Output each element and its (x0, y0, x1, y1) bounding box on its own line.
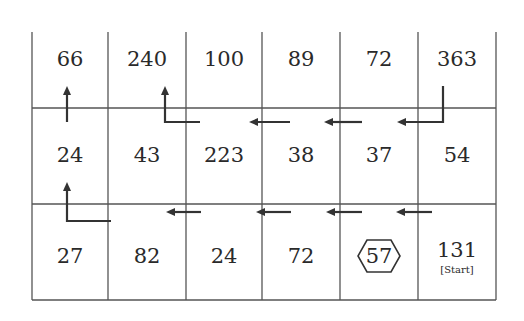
cell-r1-c4: 89 (262, 36, 340, 82)
cell-r1-c2: 240 (108, 36, 186, 82)
cell-r3-c1: 27 (32, 226, 108, 286)
cell-value: 240 (127, 47, 167, 71)
cell-r1-c1: 66 (32, 36, 108, 82)
cell-r1-c6: 363 (418, 36, 496, 82)
cell-value: 57 (366, 244, 393, 268)
cell-value: 24 (211, 244, 238, 268)
cell-r1-c3: 100 (186, 36, 262, 82)
cell-value: 223 (204, 143, 244, 167)
cell-r3-c4: 72 (262, 226, 340, 286)
cell-r2-c2: 43 (108, 130, 186, 180)
cell-value: 27 (57, 244, 84, 268)
cell-r3-c6-start: 131 [Start] (418, 226, 496, 286)
hexagon-marker: 57 (356, 238, 402, 274)
cell-value: 66 (57, 47, 84, 71)
cell-r2-c6: 54 (418, 130, 496, 180)
cell-r3-c3: 24 (186, 226, 262, 286)
number-grid: 66 240 100 89 72 363 24 43 223 38 37 54 … (0, 0, 524, 321)
cell-r2-c1: 24 (32, 130, 108, 180)
cell-value: 72 (366, 47, 393, 71)
cell-value: 72 (288, 244, 315, 268)
cell-value: 38 (288, 143, 315, 167)
cell-r3-c5: 57 (340, 226, 418, 286)
cell-r2-c4: 38 (262, 130, 340, 180)
start-label: [Start] (440, 264, 473, 275)
cell-value: 43 (134, 143, 161, 167)
cell-r1-c5: 72 (340, 36, 418, 82)
cell-value: 82 (134, 244, 161, 268)
cell-r2-c5: 37 (340, 130, 418, 180)
cell-value: 89 (288, 47, 315, 71)
cell-r3-c2: 82 (108, 226, 186, 286)
cell-value: 37 (366, 143, 393, 167)
cell-value: 131 (437, 238, 477, 262)
cell-value: 54 (444, 143, 471, 167)
cell-value: 363 (437, 47, 477, 71)
cell-value: 100 (204, 47, 244, 71)
cell-value: 24 (57, 143, 84, 167)
cell-r2-c3: 223 (186, 130, 262, 180)
